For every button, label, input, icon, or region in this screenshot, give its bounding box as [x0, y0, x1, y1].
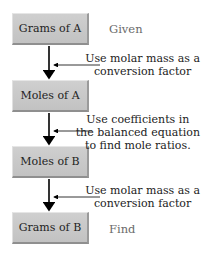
given-label: Given — [109, 22, 143, 36]
note-coefficients: Use coefficients in the balanced equatio… — [76, 113, 200, 152]
note-line: conversion factor — [85, 197, 200, 210]
note-line: to find mole ratios. — [76, 139, 200, 152]
note-line: conversion factor — [85, 65, 200, 78]
note-molar-mass-2: Use molar mass as a conversion factor — [85, 184, 200, 210]
find-label: Find — [109, 222, 135, 236]
note-line: Use molar mass as a — [85, 52, 200, 65]
box-grams-of-b: Grams of B — [12, 212, 89, 244]
box-moles-of-a: Moles of A — [12, 80, 89, 112]
note-line: the balanced equation — [76, 126, 200, 139]
note-line: Use molar mass as a — [85, 184, 200, 197]
note-line: Use coefficients in — [76, 113, 200, 126]
box-grams-of-a: Grams of A — [12, 13, 89, 45]
note-molar-mass-1: Use molar mass as a conversion factor — [85, 52, 200, 78]
